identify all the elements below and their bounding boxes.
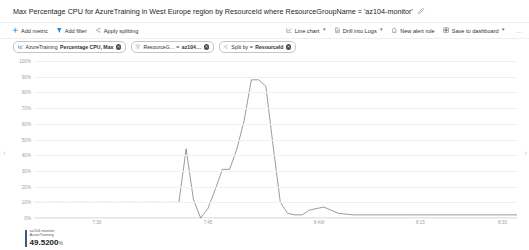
y-axis-label: 20% [22,184,31,189]
filter-icon [135,44,141,50]
legend-value: 49.5200% [30,239,63,248]
pencil-icon[interactable] [417,7,425,15]
chip-filter-remove-icon[interactable] [204,44,210,50]
chart-area: ‹ › 100%90%80%70%60%50%40%30%20%10%0%7:3… [0,55,529,250]
pan-right-button[interactable]: › [524,148,527,157]
y-axis-label: 0% [24,216,31,221]
chip-filter-key: ResourceG… = [143,44,179,50]
logs-icon [334,27,341,34]
save-to-dashboard-label: Save to dashboard [452,28,499,34]
gridline [34,77,517,78]
add-metric-button[interactable]: Add metric [12,27,48,34]
gridline [34,61,517,62]
drill-into-logs-button[interactable]: Drill into Logs ▾ [334,27,383,34]
chip-split-value: ResourceId [255,44,283,50]
new-alert-rule-label: New alert rule [400,28,435,34]
filter-chips-row: AzureTraining Percentage CPU, Max Resour… [0,39,529,55]
y-axis-label: 50% [22,137,31,142]
chip-metric-name: Percentage CPU, Max [60,44,113,50]
dashboard-icon [443,27,450,34]
save-to-dashboard-button[interactable]: Save to dashboard ▾ [443,27,505,34]
add-filter-button[interactable]: Add filter [56,27,87,34]
x-axis-label: 8:30 [498,220,507,225]
chip-metric-remove-icon[interactable] [116,44,122,50]
chart-legend[interactable]: az104-monitor AzureTraining 49.5200% [25,229,63,248]
line-chart-label: Line chart [295,28,320,34]
y-axis-label: 10% [22,200,31,205]
gridline [34,202,517,203]
filter-icon [56,27,63,34]
x-axis-label: 7:45 [203,220,212,225]
chevron-down-icon: ▾ [323,28,326,33]
y-axis-label: 60% [22,121,31,126]
chevron-down-icon: ▾ [380,28,383,33]
pan-left-button[interactable]: ‹ [3,148,6,157]
chip-metric-scope: AzureTraining [26,44,58,50]
chip-metric[interactable]: AzureTraining Percentage CPU, Max [13,41,126,53]
y-axis-label: 40% [22,153,31,158]
y-axis-label: 70% [22,106,31,111]
gridline [34,124,517,125]
legend-series-name: AzureTraining [30,233,63,237]
new-alert-rule-button[interactable]: New alert rule [391,27,435,34]
chevron-down-icon: ▾ [502,28,505,33]
gridline [34,140,517,141]
plot-region[interactable]: 100%90%80%70%60%50%40%30%20%10%0%7:307:4… [34,61,517,218]
apply-splitting-button[interactable]: Apply splitting [95,27,139,34]
chip-split-remove-icon[interactable] [286,44,292,50]
gridline [34,108,517,109]
splitting-icon [95,27,102,34]
overflow-menu-button[interactable]: ... [516,28,523,34]
chip-filter[interactable]: ResourceG… = az104… [131,41,214,53]
toolbar-right-group: Line chart ▾ Drill into Logs ▾ New alert… [286,27,523,34]
chart-toolbar: Add metric Add filter Apply splitting [0,22,529,39]
x-axis-label: 8 AM [314,220,324,225]
metric-icon [18,44,24,50]
drill-into-logs-label: Drill into Logs [343,28,377,34]
line-chart-button[interactable]: Line chart ▾ [286,27,326,34]
chip-split-by[interactable]: Split by = ResourceId [219,41,296,53]
legend-text: az104-monitor AzureTraining 49.5200% [30,229,63,248]
toolbar-left-group: Add metric Add filter Apply splitting [12,27,138,34]
y-axis-label: 90% [22,74,31,79]
chip-filter-value: az104… [182,44,201,50]
gridline [34,92,517,93]
add-icon [12,27,19,34]
legend-color-swatch [25,230,27,247]
chip-split-key: Split by = [231,44,252,50]
gridline [34,171,517,172]
apply-splitting-label: Apply splitting [104,28,139,34]
add-filter-label: Add filter [65,28,87,34]
page-title: Max Percentage CPU for AzureTraining in … [13,7,413,16]
x-axis-label: 8:15 [416,220,425,225]
x-axis-label: 7:30 [92,220,101,225]
gridline [34,155,517,156]
chart-title-row: Max Percentage CPU for AzureTraining in … [0,0,529,22]
y-axis-label: 100% [19,59,31,64]
gridline [34,218,517,219]
add-metric-label: Add metric [21,28,48,34]
metrics-chart-panel: Max Percentage CPU for AzureTraining in … [0,0,529,250]
line-chart-icon [286,27,293,34]
y-axis-label: 30% [22,168,31,173]
gridline [34,187,517,188]
alert-icon [391,27,398,34]
splitting-icon [223,44,229,50]
y-axis-label: 80% [22,90,31,95]
